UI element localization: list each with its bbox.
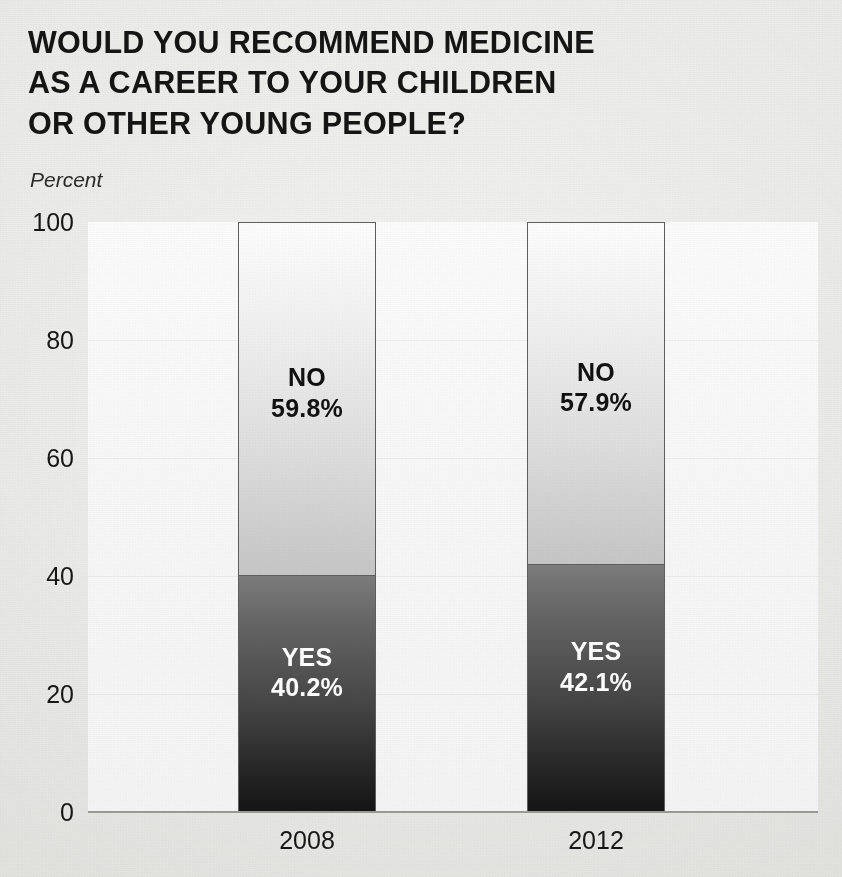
bar-2008[interactable]: NO 59.8% YES 40.2% — [238, 222, 376, 812]
bar-2012-yes-label: YES — [560, 636, 632, 667]
y-tick-80: 80 — [46, 328, 74, 353]
bar-2012-no-labelbox: NO 57.9% — [560, 357, 632, 418]
bar-2008-no-labelbox: NO 59.8% — [271, 362, 343, 423]
plot-area: 100 80 60 40 20 0 NO 59.8% YES 40.2% — [88, 222, 818, 812]
y-tick-0: 0 — [60, 800, 74, 825]
gridline-60 — [88, 458, 818, 459]
bar-2012-no-label: NO — [560, 357, 632, 388]
page-title: WOULD YOU RECOMMEND MEDICINE AS A CAREER… — [28, 22, 748, 143]
x-tick-2008: 2008 — [279, 826, 335, 855]
bar-2008-segment-no[interactable]: NO 59.8% — [239, 223, 375, 576]
x-axis-line — [88, 811, 818, 813]
gridline-80 — [88, 340, 818, 341]
page-title-line-3: OR OTHER YOUNG PEOPLE? — [28, 103, 748, 143]
bar-2012[interactable]: NO 57.9% YES 42.1% — [527, 222, 665, 812]
page-title-line-1: WOULD YOU RECOMMEND MEDICINE — [28, 22, 748, 62]
y-tick-40: 40 — [46, 564, 74, 589]
bar-2012-no-value: 57.9% — [560, 387, 632, 418]
bar-2008-no-value: 59.8% — [271, 393, 343, 424]
bar-2008-yes-labelbox: YES 40.2% — [271, 642, 343, 703]
page-title-line-2: AS A CAREER TO YOUR CHILDREN — [28, 62, 748, 102]
bar-2008-yes-label: YES — [271, 642, 343, 673]
chart-page: WOULD YOU RECOMMEND MEDICINE AS A CAREER… — [0, 0, 842, 877]
bar-2008-yes-value: 40.2% — [271, 672, 343, 703]
bar-2012-segment-no[interactable]: NO 57.9% — [528, 223, 664, 565]
y-tick-100: 100 — [32, 210, 74, 235]
bar-2008-segment-yes[interactable]: YES 40.2% — [239, 576, 375, 813]
y-tick-20: 20 — [46, 682, 74, 707]
gridline-40 — [88, 576, 818, 577]
bar-2008-no-label: NO — [271, 362, 343, 393]
bar-2012-yes-value: 42.1% — [560, 667, 632, 698]
y-tick-60: 60 — [46, 446, 74, 471]
bar-2012-segment-yes[interactable]: YES 42.1% — [528, 565, 664, 813]
x-tick-2012: 2012 — [568, 826, 624, 855]
bar-2012-yes-labelbox: YES 42.1% — [560, 636, 632, 697]
y-axis-label: Percent — [30, 168, 102, 192]
gridline-20 — [88, 694, 818, 695]
